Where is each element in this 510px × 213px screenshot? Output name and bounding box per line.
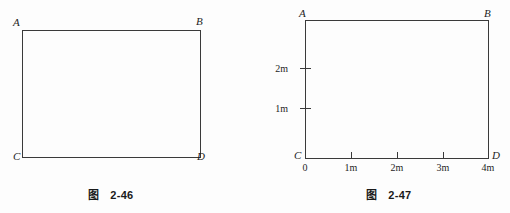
y-tick-mark-2m	[300, 68, 311, 69]
vertex-label-b-247: B	[484, 8, 491, 19]
vertex-label-c-247: C	[294, 150, 301, 161]
x-tick-label-1m: 1m	[340, 163, 362, 173]
y-tick-mark-1m	[300, 108, 311, 109]
rectangle-abcd-247	[305, 20, 489, 159]
caption-prefix-247: 图	[366, 189, 377, 201]
vertex-label-a-247: A	[299, 8, 306, 19]
y-tick-label-1m: 1m	[268, 104, 288, 114]
x-tick-label-3m: 3m	[432, 163, 454, 173]
vertex-label-d-247: D	[492, 150, 500, 161]
caption-number-247: 2-47	[388, 189, 411, 201]
x-tick-label-4m: 4m	[477, 163, 499, 173]
figure-2-47: 1m 2m 0 1m 2m 3m 4m A B C D 图2-47	[0, 0, 510, 213]
figure-caption-247: 图2-47	[366, 186, 412, 202]
x-tick-mark-1m	[351, 152, 352, 159]
figure-sheet: A B C D 图2-46 1m 2m 0 1m 2m 3m 4m A B C …	[0, 0, 510, 213]
x-tick-mark-2m	[397, 152, 398, 159]
x-tick-label-2m: 2m	[386, 163, 408, 173]
x-tick-mark-3m	[443, 152, 444, 159]
y-tick-label-2m: 2m	[268, 64, 288, 74]
x-tick-label-0: 0	[297, 163, 313, 173]
